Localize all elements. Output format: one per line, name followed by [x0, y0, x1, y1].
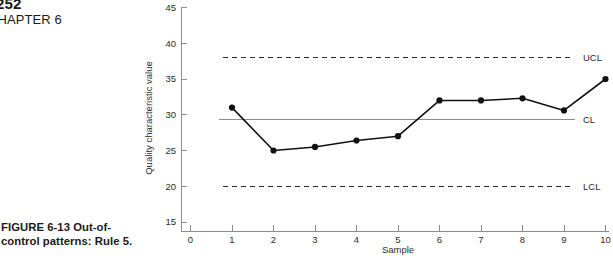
x-axis-tick-label: 8 — [520, 234, 525, 245]
y-axis-tick-label: 15 — [165, 216, 176, 227]
y-axis-tick-label: 35 — [165, 73, 176, 84]
data-point-1 — [229, 105, 235, 111]
y-axis-title: Quality characteristic value — [143, 61, 154, 175]
x-axis-tick-label: 10 — [600, 234, 611, 245]
data-point-5 — [395, 133, 401, 139]
y-axis: 15202530354045 — [165, 2, 187, 231]
data-point-8 — [519, 95, 525, 101]
y-axis-tick-label: 25 — [165, 145, 176, 156]
x-axis-tick-label: 2 — [271, 234, 276, 245]
y-axis-tick-label: 20 — [165, 181, 176, 192]
control-limit-lines: UCLCLLCL — [219, 52, 602, 192]
x-axis: 012345678910 — [181, 225, 611, 245]
x-axis-tick-label: 6 — [437, 234, 442, 245]
x-axis-tick-label: 9 — [561, 234, 566, 245]
x-axis-tick-label: 3 — [312, 234, 317, 245]
control-limit-label-ucl: UCL — [583, 52, 602, 63]
data-point-6 — [436, 97, 442, 103]
data-point-3 — [312, 144, 318, 150]
x-axis-tick-label: 0 — [188, 234, 193, 245]
y-axis-tick-label: 45 — [165, 2, 176, 13]
data-point-9 — [561, 107, 567, 113]
data-point-2 — [270, 147, 276, 153]
data-series — [229, 76, 609, 154]
series-polyline — [232, 79, 606, 151]
y-axis-tick-label: 30 — [165, 109, 176, 120]
x-axis-tick-label: 4 — [354, 234, 359, 245]
control-chart: 15202530354045 012345678910 UCLCLLCL Qua… — [0, 0, 613, 258]
y-axis-tick-label: 40 — [165, 38, 176, 49]
x-axis-title: Sample — [382, 244, 414, 255]
x-axis-tick-label: 7 — [478, 234, 483, 245]
x-axis-tick-label: 1 — [229, 234, 234, 245]
control-limit-label-lcl: LCL — [583, 181, 600, 192]
control-limit-label-cl: CL — [583, 114, 595, 125]
control-chart-svg: 15202530354045 012345678910 UCLCLLCL Qua… — [0, 0, 613, 258]
data-point-10 — [602, 76, 608, 82]
data-point-4 — [353, 137, 359, 143]
data-point-7 — [478, 97, 484, 103]
